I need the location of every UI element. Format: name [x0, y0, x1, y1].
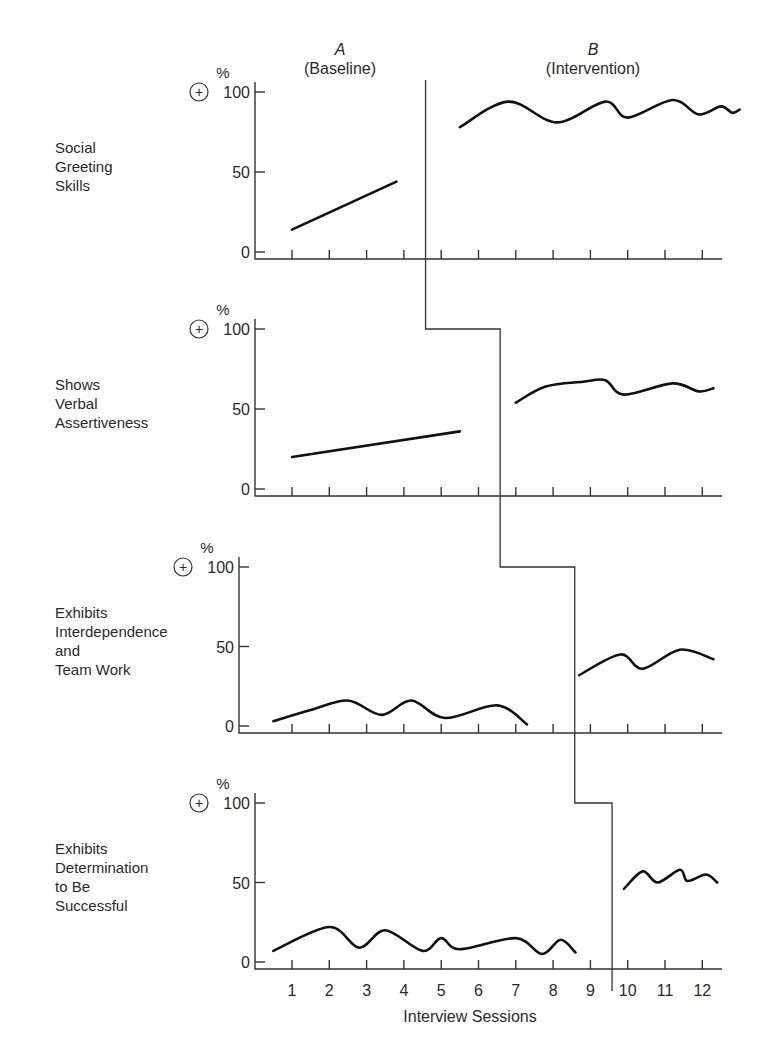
panel-label-line: Team Work	[55, 661, 131, 678]
series-baseline	[273, 927, 575, 954]
panel-label-line: Exhibits	[55, 840, 108, 857]
series-intervention	[460, 100, 740, 127]
phase-change-line	[426, 80, 613, 991]
panel-label-line: Shows	[55, 376, 100, 393]
series-baseline	[273, 700, 527, 724]
series-intervention	[579, 650, 713, 676]
y-tick-label: 50	[232, 164, 250, 181]
x-tick-label: 8	[549, 982, 558, 999]
y-unit-label: %	[216, 64, 229, 81]
plus-symbol: +	[195, 84, 203, 100]
x-axis-title: Interview Sessions	[403, 1008, 536, 1025]
panel-label-line: Verbal	[55, 395, 98, 412]
panel-label-line: Greeting	[55, 158, 113, 175]
panel-4: ExhibitsDeterminationto BeSuccessful0501…	[55, 775, 722, 971]
y-tick-label: 0	[241, 481, 250, 498]
y-unit-label: %	[216, 775, 229, 792]
x-tick-label: 6	[474, 982, 483, 999]
axes	[239, 557, 722, 733]
panel-label-line: Social	[55, 139, 96, 156]
y-tick-label: 100	[207, 559, 234, 576]
axes	[255, 319, 722, 496]
x-tick-label: 11	[657, 982, 674, 999]
panel-1: SocialGreetingSkills050100%+	[55, 64, 740, 261]
y-tick-label: 0	[241, 244, 250, 261]
y-tick-label: 50	[232, 401, 250, 418]
phase-b-name: (Intervention)	[546, 60, 640, 77]
x-tick-label: 1	[288, 982, 297, 999]
panels: SocialGreetingSkills050100%+ShowsVerbalA…	[55, 64, 740, 971]
panel-label-line: and	[55, 642, 80, 659]
plus-symbol: +	[179, 559, 187, 575]
x-tick-label: 12	[693, 982, 711, 999]
panel-3: ExhibitsInterdependenceandTeam Work05010…	[55, 539, 722, 735]
x-tick-label: 5	[437, 982, 446, 999]
y-unit-label: %	[216, 301, 229, 318]
panel-label-line: Skills	[55, 177, 90, 194]
y-tick-label: 50	[216, 639, 234, 656]
phase-a-letter: A	[334, 41, 346, 58]
panel-label-line: Exhibits	[55, 604, 108, 621]
x-tick-label: 3	[362, 982, 371, 999]
y-tick-label: 100	[223, 84, 250, 101]
series-baseline	[292, 182, 396, 230]
plus-symbol: +	[195, 795, 203, 811]
x-tick-label: 9	[586, 982, 595, 999]
phase-a-name: (Baseline)	[304, 60, 376, 77]
panel-label-line: Assertiveness	[55, 414, 148, 431]
x-tick-label: 10	[619, 982, 637, 999]
y-tick-label: 100	[223, 321, 250, 338]
panel-label-line: Successful	[55, 897, 128, 914]
x-tick-label: 4	[399, 982, 408, 999]
panel-label-line: Interdependence	[55, 623, 168, 640]
phase-headers: A (Baseline) B (Intervention)	[304, 41, 640, 77]
phase-b-letter: B	[588, 41, 599, 58]
x-tick-label: 7	[511, 982, 520, 999]
panel-label-line: to Be	[55, 878, 90, 895]
y-tick-label: 0	[225, 718, 234, 735]
panel-2: ShowsVerbalAssertiveness050100%+	[55, 301, 722, 498]
x-axis-tick-labels: 123456789101112	[288, 982, 712, 999]
y-tick-label: 0	[241, 954, 250, 971]
phase-change-step-line	[426, 80, 613, 991]
series-baseline	[292, 431, 460, 457]
y-tick-label: 50	[232, 875, 250, 892]
series-intervention	[624, 870, 717, 889]
panel-label-line: Determination	[55, 859, 148, 876]
y-tick-label: 100	[223, 795, 250, 812]
y-unit-label: %	[200, 539, 213, 556]
plus-symbol: +	[195, 321, 203, 337]
x-tick-label: 2	[325, 982, 334, 999]
multiple-baseline-chart: A (Baseline) B (Intervention) SocialGree…	[0, 0, 769, 1057]
series-intervention	[516, 379, 714, 402]
